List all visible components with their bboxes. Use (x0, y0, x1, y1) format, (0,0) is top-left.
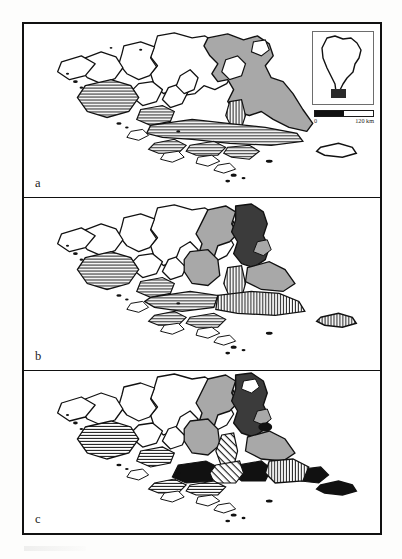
south-islet-3-b (196, 327, 220, 338)
south-islet-1-c (127, 469, 149, 480)
south-islet-4-b (214, 335, 236, 345)
scale-bar-min-label: 0 (314, 117, 317, 124)
light-grey-southeast-b (246, 262, 295, 292)
vertical-hatch-south-wedge-b (216, 291, 305, 315)
panel-c: c (24, 371, 380, 533)
central-island-outline-c (133, 423, 163, 447)
inset-locator-a (312, 31, 374, 105)
scale-bar-segment-dark (315, 111, 344, 116)
south-islet-1-a (127, 129, 149, 140)
central-island-outline (133, 82, 163, 106)
study-area-highlight (331, 89, 346, 98)
black-spot-dark-region-c (258, 423, 272, 432)
scale-bar-max-label: 120 km (355, 117, 374, 124)
light-grey-southeast-c (246, 431, 295, 461)
south-island-2-b (186, 313, 226, 327)
panel-b-label: b (35, 349, 41, 364)
south-america-inset-svg (313, 32, 373, 104)
south-island-1-b (149, 311, 187, 325)
horizontal-hatch-west-c (77, 421, 138, 459)
horizontal-hatch-west-b (77, 252, 138, 290)
south-island-1-a (149, 139, 187, 153)
south-islet-3-c (196, 495, 220, 506)
dark-grey-region-b (232, 204, 270, 268)
central-island-outline-b (133, 254, 163, 278)
panel-b: b (24, 198, 380, 371)
figure-frame: 0 120 km a (22, 22, 382, 535)
eastern-island-a (317, 143, 357, 157)
south-island-3-a (224, 145, 260, 159)
eastern-island-b (317, 313, 357, 327)
eastern-island-c (317, 481, 357, 495)
map-panel-c (24, 371, 380, 533)
map-panel-b (24, 198, 380, 370)
scale-bar-labels: 0 120 km (314, 117, 374, 124)
scale-bar-rail (314, 110, 374, 117)
scale-bar-segment-light (344, 111, 373, 116)
scan-artifact (24, 546, 86, 551)
vertical-hatch-southeast-c (265, 459, 309, 483)
diagonal-hatch-south-c (210, 461, 244, 483)
south-america-outline (322, 36, 361, 95)
south-islet-4-a (214, 163, 236, 173)
south-islet-3-a (196, 155, 220, 166)
horizontal-hatch-west-a (77, 80, 138, 118)
south-islet-4-c (214, 503, 236, 513)
south-island-2-a (186, 141, 226, 155)
panel-c-label: c (35, 512, 41, 527)
panel-a: 0 120 km a (24, 24, 380, 198)
panel-a-label: a (35, 176, 41, 191)
inner-white-notch-a (222, 56, 246, 80)
peninsula-outline (119, 42, 157, 80)
peninsula-outline-b (119, 214, 157, 252)
peninsula-outline-c (119, 383, 157, 421)
horizontal-hatch-mid-c (137, 447, 175, 467)
south-islet-1-b (127, 301, 149, 312)
scale-bar: 0 120 km (314, 110, 374, 124)
